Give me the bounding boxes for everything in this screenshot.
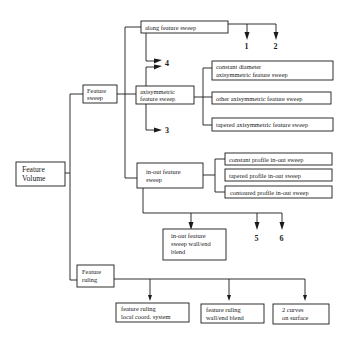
arrow-down-icon [148, 295, 152, 301]
svg-text:tapered axisymmetric feature s: tapered axisymmetric feature sweep [216, 121, 308, 128]
node-feature-volume: Feature Volume [16, 162, 65, 186]
svg-text:feature ruling: feature ruling [121, 305, 156, 312]
svg-text:sweep: sweep [87, 94, 103, 101]
arrow-down-icon [303, 295, 307, 301]
svg-text:axisymmetric: axisymmetric [140, 88, 175, 95]
svg-text:Volume: Volume [22, 174, 46, 183]
arrow-down-icon [245, 32, 250, 40]
svg-text:Feature: Feature [87, 87, 106, 94]
ref-label-1: 1 [245, 42, 249, 51]
node-constant-profile-in-out: constant profile in-out sweep [225, 153, 332, 165]
node-feature-sweep: Feature sweep [83, 85, 117, 103]
svg-text:blend: blend [171, 248, 186, 255]
arrow-down-icon [280, 222, 285, 230]
arrow-down-icon [227, 295, 231, 301]
arrow-right-icon [154, 128, 162, 133]
svg-text:constant profile in-out sweep: constant profile in-out sweep [229, 156, 303, 163]
svg-text:on surface: on surface [282, 314, 309, 321]
arrow-right-icon [154, 59, 162, 64]
svg-text:constant diameter: constant diameter [216, 63, 262, 70]
svg-text:sweep wall/end: sweep wall/end [171, 240, 211, 247]
node-other-axisymmetric: other axisymmetric feature sweep [212, 92, 331, 104]
svg-text:in-out feature: in-out feature [146, 168, 181, 175]
node-contoured-profile-in-out: contoured profile in-out sweep [225, 186, 332, 198]
node-constant-diameter-axisymmetric: constant diameter axisymmetric feature s… [212, 61, 333, 80]
svg-text:ruling: ruling [82, 276, 98, 283]
arrow-right-icon [154, 65, 162, 70]
svg-text:contoured profile in-out sweep: contoured profile in-out sweep [230, 189, 309, 196]
node-in-out-feature-sweep: in-out feature sweep [137, 163, 203, 188]
ref-label-4: 4 [165, 59, 169, 68]
node-tapered-profile-in-out: tapered profile in-out sweep [225, 169, 332, 181]
svg-text:feature sweep: feature sweep [140, 95, 175, 102]
node-tapered-axisymmetric: tapered axisymmetric feature sweep [212, 118, 333, 131]
node-two-curves-on-surface: 2 curves on surface [273, 304, 329, 324]
svg-text:feature ruling: feature ruling [206, 306, 241, 313]
svg-text:other axisymmetric feature swe: other axisymmetric feature sweep [216, 95, 302, 102]
svg-text:Feature: Feature [82, 268, 101, 275]
node-in-out-wall-end-blend: in-out feature sweep wall/end blend [163, 229, 226, 260]
svg-text:2 curves: 2 curves [282, 306, 304, 313]
svg-text:wall/end blend: wall/end blend [206, 314, 245, 321]
ref-label-5: 5 [255, 234, 259, 243]
svg-text:axisymmetric feature sweep: axisymmetric feature sweep [216, 71, 288, 78]
svg-text:along feature sweep: along feature sweep [145, 24, 196, 31]
ref-label-3: 3 [165, 126, 169, 135]
node-feature-ruling: Feature ruling [77, 265, 114, 287]
svg-text:in-out feature: in-out feature [171, 232, 206, 239]
svg-text:tapered profile in-out sweep: tapered profile in-out sweep [229, 172, 301, 179]
ref-label-6: 6 [280, 234, 284, 243]
node-ruling-local-coord-system: feature ruling local coord. system [116, 303, 189, 322]
node-ruling-wall-end-blend: feature ruling wall/end blend [201, 304, 264, 323]
arrow-down-icon [274, 32, 279, 40]
arrow-down-icon [255, 222, 260, 230]
node-along-feature-sweep: along feature sweep [141, 21, 228, 33]
ref-label-2: 2 [274, 42, 278, 51]
svg-text:sweep: sweep [146, 176, 162, 183]
feature-volume-taxonomy-diagram: 1 2 4 3 5 6 Feature Volume Feature sweep… [0, 0, 347, 342]
svg-text:Feature: Feature [22, 165, 45, 174]
svg-text:local coord. system: local coord. system [121, 313, 171, 320]
node-axisymmetric-feature-sweep: axisymmetric feature sweep [136, 86, 194, 104]
